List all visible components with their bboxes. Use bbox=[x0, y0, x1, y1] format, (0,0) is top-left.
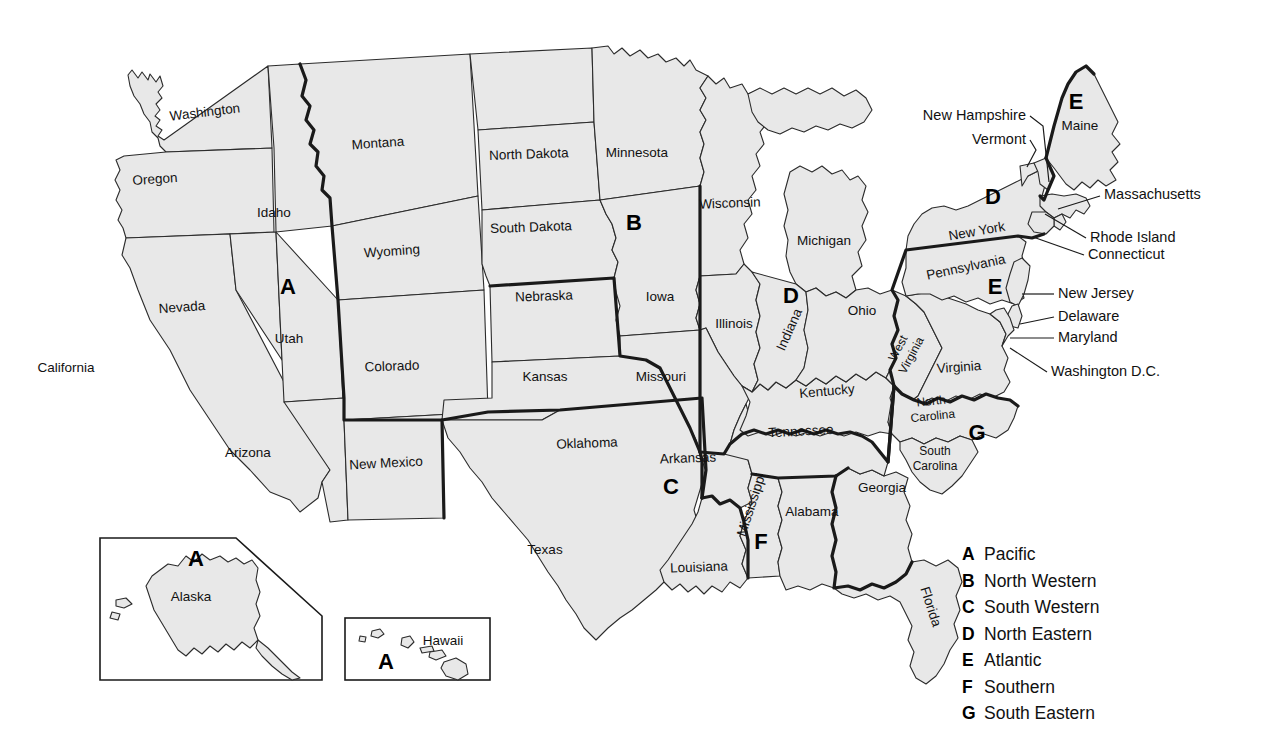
state-label-north-dakota: North Dakota bbox=[489, 145, 570, 163]
legend-key-d: D bbox=[962, 624, 984, 645]
region-letter-e-6: E bbox=[1069, 89, 1084, 114]
state-label-ohio: Ohio bbox=[848, 303, 877, 318]
state-label-oregon: Oregon bbox=[132, 170, 178, 188]
legend-row-d[interactable]: DNorth Eastern bbox=[962, 624, 1262, 651]
legend-key-b: B bbox=[962, 571, 984, 592]
alaska-region-letter: A bbox=[188, 546, 204, 571]
callout-label-new-hampshire[interactable]: New Hampshire bbox=[923, 107, 1026, 123]
alaska-aleutians bbox=[116, 598, 132, 608]
legend-key-g: G bbox=[962, 703, 984, 724]
hawaii-niihau bbox=[359, 636, 366, 642]
hawaii-label: Hawaii bbox=[423, 633, 464, 648]
legend-key-a: A bbox=[962, 544, 984, 565]
hawaii-inset: A Hawaii bbox=[345, 618, 490, 680]
state-label-california: California bbox=[37, 360, 95, 375]
state-label-wisconsin: Wisconsin bbox=[699, 194, 761, 211]
state-label-utah: Utah bbox=[275, 331, 304, 346]
hawaii-maui bbox=[429, 650, 446, 660]
leader-line-delaware bbox=[1020, 317, 1054, 324]
region-letter-f-7: F bbox=[754, 529, 767, 554]
state-label-oklahoma: Oklahoma bbox=[556, 434, 619, 451]
region-letter-c-2: C bbox=[663, 474, 679, 499]
state-label-missouri: Missouri bbox=[636, 369, 686, 384]
alaska-panhandle bbox=[256, 640, 300, 680]
callout-label-maryland[interactable]: Maryland bbox=[1058, 329, 1118, 345]
legend-name-north-western: North Western bbox=[984, 571, 1097, 592]
leader-line-washington-d-c bbox=[1010, 348, 1047, 372]
legend-name-south-western: South Western bbox=[984, 597, 1099, 618]
hawaii-inset-frame bbox=[345, 618, 490, 680]
legend-row-g[interactable]: GSouth Eastern bbox=[962, 703, 1262, 730]
state-label-minnesota: Minnesota bbox=[606, 145, 669, 160]
hawaii-oahu bbox=[401, 636, 414, 648]
legend-row-a[interactable]: APacific bbox=[962, 544, 1262, 571]
state-label-arizona: Arizona bbox=[225, 445, 271, 460]
callout-label-washington-d-c[interactable]: Washington D.C. bbox=[1051, 363, 1160, 379]
callout-label-massachusetts[interactable]: Massachusetts bbox=[1104, 186, 1201, 202]
legend-name-atlantic: Atlantic bbox=[984, 650, 1041, 671]
legend-row-c[interactable]: CSouth Western bbox=[962, 597, 1262, 624]
state-minnesota[interactable] bbox=[592, 46, 708, 200]
region-letter-a-0: A bbox=[280, 274, 296, 299]
legend-name-south-eastern: South Eastern bbox=[984, 703, 1095, 724]
state-michigan-upper[interactable] bbox=[748, 88, 872, 134]
legend-name-north-eastern: North Eastern bbox=[984, 624, 1092, 645]
callout-label-new-jersey[interactable]: New Jersey bbox=[1058, 285, 1134, 301]
legend-name-southern: Southern bbox=[984, 677, 1055, 698]
us-regions-map: WashingtonOregonMontanaIdahoWyomingNorth… bbox=[0, 0, 1270, 750]
legend-row-e[interactable]: EAtlantic bbox=[962, 650, 1262, 677]
region-letter-d-4: D bbox=[985, 184, 1001, 209]
state-oregon[interactable] bbox=[115, 148, 274, 238]
state-south-dakota[interactable] bbox=[478, 122, 600, 210]
hawaii-region-letter: A bbox=[378, 649, 394, 674]
legend-row-b[interactable]: BNorth Western bbox=[962, 571, 1262, 598]
state-label-idaho: Idaho bbox=[257, 205, 291, 220]
state-alabama[interactable] bbox=[778, 476, 836, 590]
state-label-south-dakota: South Dakota bbox=[490, 218, 573, 236]
callout-label-connecticut[interactable]: Connecticut bbox=[1088, 246, 1165, 262]
state-label-kansas: Kansas bbox=[522, 369, 567, 384]
callout-label-rhode-island[interactable]: Rhode Island bbox=[1090, 229, 1175, 245]
leader-line-connecticut bbox=[1033, 237, 1084, 255]
state-label-georgia: Georgia bbox=[858, 480, 907, 495]
region-letter-d-3: D bbox=[783, 283, 799, 308]
state-label-iowa: Iowa bbox=[646, 289, 675, 304]
hawaii-bigisland bbox=[441, 658, 468, 680]
state-label-alabama: Alabama bbox=[785, 504, 839, 519]
legend-key-e: E bbox=[962, 650, 984, 671]
state-label-texas: Texas bbox=[527, 542, 563, 557]
alaska-inset: A Alaska bbox=[100, 538, 322, 680]
region-letter-g-8: G bbox=[968, 420, 985, 445]
state-label-louisiana: Louisiana bbox=[670, 559, 729, 576]
state-label-maine: Maine bbox=[1062, 118, 1099, 133]
region-letter-e-5: E bbox=[988, 274, 1003, 299]
state-label-virginia: Virginia bbox=[936, 358, 982, 376]
state-north-dakota[interactable] bbox=[470, 48, 594, 130]
state-nebraska[interactable] bbox=[482, 200, 618, 286]
state-label-arkansas: Arkansas bbox=[660, 450, 717, 467]
state-label-illinois: Illinois bbox=[715, 316, 753, 331]
legend-key-c: C bbox=[962, 597, 984, 618]
state-label-nebraska: Nebraska bbox=[515, 288, 574, 305]
legend-name-pacific: Pacific bbox=[984, 544, 1036, 565]
hawaii-kauai bbox=[371, 629, 384, 638]
region-letter-b-1: B bbox=[626, 210, 642, 235]
state-texas[interactable] bbox=[442, 398, 706, 640]
legend-row-f[interactable]: FSouthern bbox=[962, 677, 1262, 704]
legend-key-f: F bbox=[962, 677, 984, 698]
callout-label-delaware[interactable]: Delaware bbox=[1058, 308, 1119, 324]
alaska-label: Alaska bbox=[171, 589, 212, 604]
state-label-colorado: Colorado bbox=[364, 358, 419, 375]
region-legend: APacificBNorth WesternCSouth WesternDNor… bbox=[962, 544, 1262, 730]
state-label-michigan: Michigan bbox=[797, 233, 851, 248]
alaska-island-small bbox=[110, 612, 120, 620]
callout-label-vermont[interactable]: Vermont bbox=[972, 131, 1026, 147]
